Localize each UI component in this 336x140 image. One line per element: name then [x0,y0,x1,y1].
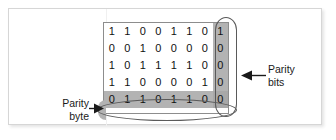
bit-cell: 1 [182,23,198,40]
parity-bits-label-line2: bits [268,76,295,89]
bit-cell: 0 [135,74,151,91]
bit-cell: 0 [151,23,167,40]
parity-byte-cell: 1 [182,91,198,108]
bit-cell: 0 [182,40,198,57]
parity-byte-cell: 0 [151,91,167,108]
parity-bit-cell: 0 [213,40,229,57]
bit-cell: 0 [104,40,120,57]
bit-cell: 1 [120,74,136,91]
bit-cell: 0 [197,23,213,40]
bit-cell: 1 [135,57,151,74]
bit-cell: 0 [197,40,213,57]
table-row: 1 1 0 0 0 0 1 0 [104,74,228,91]
parity-byte-cell: 1 [135,91,151,108]
bit-cell: 0 [166,40,182,57]
bit-cell: 0 [151,74,167,91]
bit-cell: 0 [120,57,136,74]
parity-byte-label-line1: Parity [31,97,89,110]
parity-byte-label-line2: byte [31,110,89,123]
table-row: 1 0 1 1 1 1 0 0 [104,57,228,74]
parity-bit-cell: 0 [213,57,229,74]
bit-cell: 0 [120,40,136,57]
parity-byte-cell: 0 [104,91,120,108]
parity-byte-cell: 1 [166,91,182,108]
bit-cell: 0 [166,74,182,91]
figure-card: 1 1 0 0 1 1 0 1 0 0 1 0 0 0 0 0 1 0 1 1 … [8,8,322,125]
bit-cell: 1 [135,40,151,57]
bit-cell: 1 [166,57,182,74]
parity-byte-arrow-icon [89,103,105,114]
parity-bits-label-line1: Parity [268,63,295,76]
parity-bit-cell: 0 [213,74,229,91]
bit-cell: 0 [151,40,167,57]
bit-cell: 0 [182,74,198,91]
table-row: 1 1 0 0 1 1 0 1 [104,23,228,40]
bit-cell: 1 [166,23,182,40]
parity-byte-row: 0 1 1 0 1 1 0 0 [104,91,228,108]
parity-bit-cell: 1 [213,23,229,40]
parity-byte-cell: 0 [197,91,213,108]
bit-cell: 1 [104,23,120,40]
bit-cell: 0 [197,57,213,74]
table-row: 0 0 1 0 0 0 0 0 [104,40,228,57]
parity-bits-arrow-icon [241,70,267,81]
bit-cell: 1 [120,23,136,40]
parity-bit-matrix: 1 1 0 0 1 1 0 1 0 0 1 0 0 0 0 0 1 0 1 1 … [103,22,229,114]
parity-byte-label: Parity byte [31,97,89,122]
bit-cell: 0 [135,23,151,40]
parity-byte-cell: 1 [120,91,136,108]
bit-cell: 1 [104,74,120,91]
corner-parity-cell: 0 [213,91,229,108]
bit-cell: 1 [104,57,120,74]
bit-cell: 1 [197,74,213,91]
bit-cell: 1 [151,57,167,74]
bit-cell: 1 [182,57,198,74]
parity-bits-label: Parity bits [268,63,295,88]
